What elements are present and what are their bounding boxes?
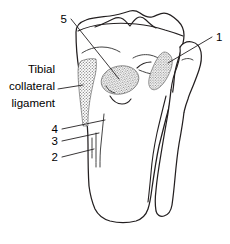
- tibial-collateral-ligament-line2: collateral: [9, 80, 55, 92]
- number-label-1: 1: [216, 31, 222, 43]
- fibula-head-outline: [180, 42, 201, 112]
- number-label-3: 3: [52, 135, 58, 147]
- number-label-2: 2: [52, 151, 58, 163]
- tibial-collateral-ligament-line3: ligament: [12, 97, 56, 109]
- anatomical-figure: Tibial collateral ligament 5 1 4 3 2: [0, 0, 230, 244]
- number-label-4: 4: [52, 123, 59, 135]
- tibial-collateral-ligament-line1: Tibial: [28, 63, 55, 75]
- tibia-fibula-illustration: Tibial collateral ligament 5 1 4 3 2: [0, 0, 230, 244]
- number-label-5: 5: [61, 13, 67, 25]
